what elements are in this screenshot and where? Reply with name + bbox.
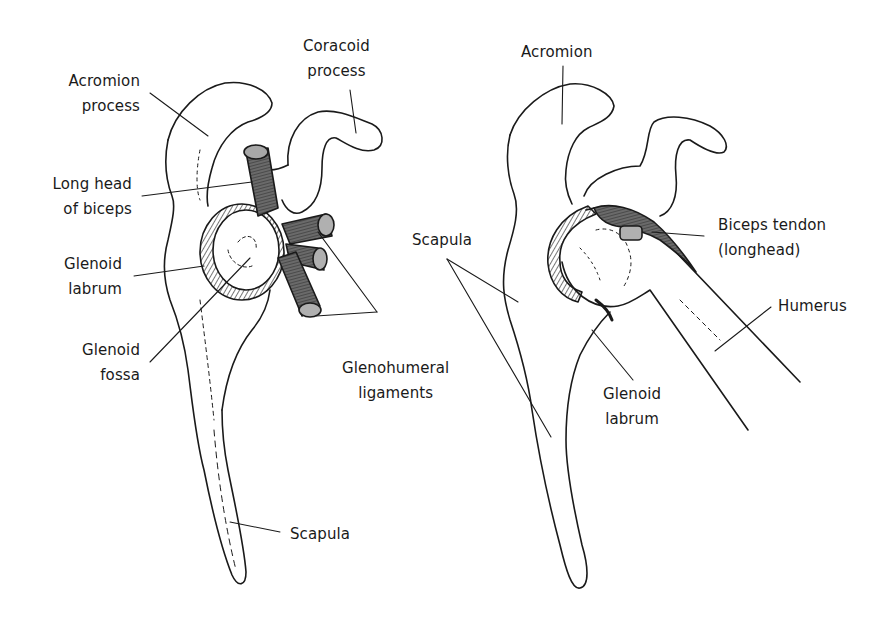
shoulder-anatomy-diagram: Coracoid process Acromion process Long h…: [0, 0, 887, 621]
label-glenohumeral-ligaments: Glenohumeral ligaments: [342, 356, 449, 406]
left-scapula-drawing: [164, 82, 382, 583]
label-acromion-process: Acromion process: [46, 69, 140, 119]
right-shoulder-drawing: [504, 84, 800, 588]
label-scapula-left: Scapula: [290, 522, 350, 547]
label-humerus: Humerus: [778, 294, 847, 319]
label-glenoid-labrum-right: Glenoid labrum: [603, 382, 661, 432]
label-acromion-right: Acromion: [521, 40, 593, 65]
label-scapula-right: Scapula: [412, 228, 472, 253]
label-biceps-tendon-longhead: Biceps tendon (longhead): [718, 213, 826, 263]
label-long-head-of-biceps: Long head of biceps: [36, 172, 132, 222]
label-glenoid-fossa: Glenoid fossa: [64, 338, 140, 388]
label-glenoid-labrum: Glenoid labrum: [46, 252, 122, 302]
label-coracoid-process: Coracoid process: [303, 34, 370, 84]
